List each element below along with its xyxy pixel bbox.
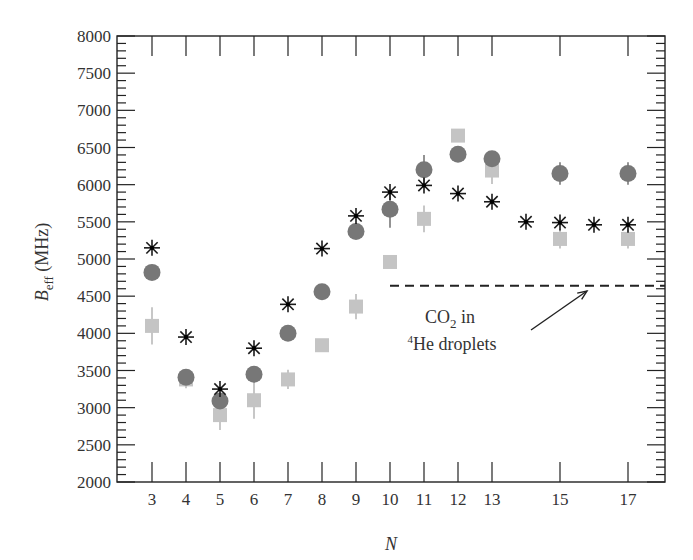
x-tick-label: 13	[484, 490, 501, 509]
y-axis-title-unit: (MHz)	[32, 223, 53, 276]
asterisk-marker	[348, 208, 364, 224]
y-tick-label: 2500	[77, 436, 111, 455]
square-marker	[553, 232, 567, 246]
square-marker	[145, 319, 159, 333]
asterisk-marker	[144, 240, 160, 256]
y-tick-label: 3000	[77, 399, 111, 418]
y-axis: 2000250030003500400045005000550060006500…	[77, 27, 665, 492]
circle-marker	[314, 283, 331, 300]
asterisk-marker	[314, 241, 330, 257]
circle-marker	[246, 366, 263, 383]
circle-marker	[484, 150, 501, 167]
asterisk-marker	[280, 296, 296, 312]
y-axis-title: Beff (MHz)	[32, 223, 56, 302]
annotation-line-2: 4He droplets	[408, 333, 497, 354]
square-marker	[281, 372, 295, 386]
x-axis-title: N	[384, 534, 398, 554]
y-tick-label: 6500	[77, 139, 111, 158]
x-tick-label: 3	[148, 490, 157, 509]
circle-marker	[382, 201, 399, 218]
chart: 2000250030003500400045005000550060006500…	[0, 0, 693, 560]
x-tick-label: 7	[284, 490, 293, 509]
x-tick-label: 15	[552, 490, 569, 509]
asterisk-marker	[552, 215, 568, 231]
y-axis-title-sub: eff	[41, 275, 56, 290]
y-tick-label: 4000	[77, 324, 111, 343]
asterisk-marker	[212, 381, 228, 397]
data-series	[144, 129, 637, 430]
square-marker	[621, 232, 635, 246]
annotation-arrow	[531, 291, 587, 330]
asterisk-marker	[416, 177, 432, 193]
circle-marker	[620, 165, 637, 182]
y-tick-label: 2000	[77, 473, 111, 492]
square-marker	[213, 408, 227, 422]
circle-marker	[450, 146, 467, 163]
square-marker	[349, 300, 363, 314]
x-tick-label: 9	[352, 490, 361, 509]
x-tick-label: 4	[182, 490, 191, 509]
circle-marker	[178, 369, 195, 386]
asterisk-marker	[450, 186, 466, 202]
x-tick-label: 11	[416, 490, 432, 509]
square-marker	[383, 255, 397, 269]
y-tick-label: 7500	[77, 64, 111, 83]
circle-marker	[280, 325, 297, 342]
y-tick-label: 6000	[77, 176, 111, 195]
asterisk-marker	[518, 214, 534, 230]
y-axis-title-main: B	[32, 290, 52, 301]
x-tick-label: 5	[216, 490, 225, 509]
asterisk-marker	[586, 217, 602, 233]
asterisk-marker	[484, 194, 500, 210]
annotation-line-1: CO2 in	[425, 307, 475, 331]
annotation: CO2 in4He droplets	[408, 291, 587, 354]
asterisk-marker	[620, 217, 636, 233]
circle-marker	[348, 223, 365, 240]
asterisk-marker	[382, 184, 398, 200]
y-tick-label: 4500	[77, 287, 111, 306]
x-tick-label: 12	[450, 490, 467, 509]
y-tick-label: 3500	[77, 362, 111, 381]
asterisk-marker	[246, 340, 262, 356]
square-marker	[247, 393, 261, 407]
y-tick-label: 5000	[77, 250, 111, 269]
y-tick-label: 5500	[77, 213, 111, 232]
square-marker	[315, 338, 329, 352]
square-marker	[417, 212, 431, 226]
circle-marker	[416, 161, 433, 178]
square-marker	[451, 129, 465, 143]
circle-marker	[144, 264, 161, 281]
x-tick-label: 10	[382, 490, 399, 509]
x-axis: 3456789101112131517	[148, 36, 637, 509]
asterisk-marker	[178, 329, 194, 345]
x-tick-label: 17	[620, 490, 638, 509]
x-tick-label: 8	[318, 490, 327, 509]
x-tick-label: 6	[250, 490, 259, 509]
y-tick-label: 7000	[77, 101, 111, 120]
y-tick-label: 8000	[77, 27, 111, 46]
circle-marker	[552, 165, 569, 182]
